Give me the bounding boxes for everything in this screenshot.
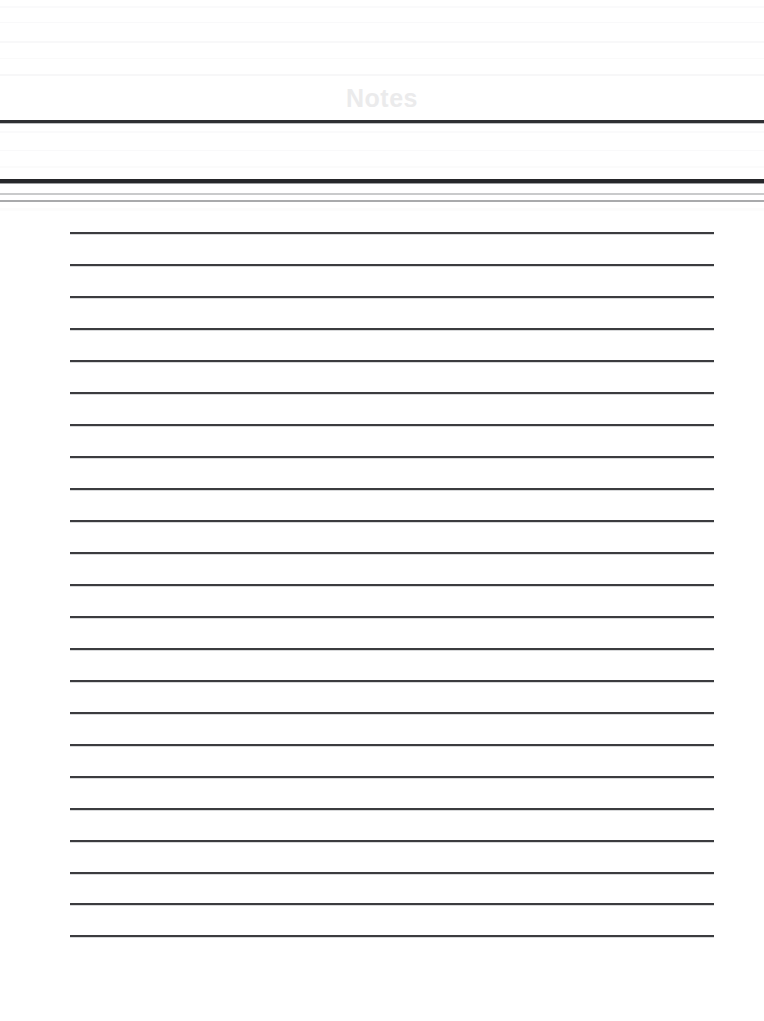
note-rule-line[interactable] bbox=[70, 616, 714, 618]
scan-band bbox=[0, 166, 764, 168]
note-rule-line[interactable] bbox=[70, 264, 714, 266]
scan-band bbox=[0, 131, 764, 133]
note-rule-line[interactable] bbox=[70, 680, 714, 682]
note-rule-line[interactable] bbox=[70, 392, 714, 394]
note-rule-line[interactable] bbox=[70, 712, 714, 714]
note-rule-line[interactable] bbox=[70, 360, 714, 362]
note-rule-line[interactable] bbox=[70, 808, 714, 810]
note-rule-line[interactable] bbox=[70, 935, 714, 937]
note-writing-area[interactable] bbox=[0, 210, 764, 1021]
note-rule-line[interactable] bbox=[70, 648, 714, 650]
note-rule-line[interactable] bbox=[70, 903, 714, 905]
note-rule-line[interactable] bbox=[70, 296, 714, 298]
header-accent-line-1 bbox=[0, 193, 764, 195]
note-rule-line[interactable] bbox=[70, 872, 714, 874]
page-header: Notes bbox=[0, 0, 764, 118]
header-divider-top-shadow bbox=[0, 123, 764, 124]
header-divider-main-shadow bbox=[0, 183, 764, 184]
note-rule-line[interactable] bbox=[70, 328, 714, 330]
note-rule-line[interactable] bbox=[70, 232, 714, 234]
note-rule-line[interactable] bbox=[70, 584, 714, 586]
note-rule-line[interactable] bbox=[70, 456, 714, 458]
note-rule-line[interactable] bbox=[70, 840, 714, 842]
note-rule-line[interactable] bbox=[70, 744, 714, 746]
note-rule-line[interactable] bbox=[70, 552, 714, 554]
note-page: Notes bbox=[0, 0, 764, 1021]
note-rule-line[interactable] bbox=[70, 520, 714, 522]
page-title: Notes bbox=[0, 84, 764, 112]
note-rule-line[interactable] bbox=[70, 776, 714, 778]
note-rule-line[interactable] bbox=[70, 424, 714, 426]
scan-band bbox=[0, 150, 764, 151]
note-rule-line[interactable] bbox=[70, 488, 714, 490]
header-accent-line-2 bbox=[0, 200, 764, 202]
